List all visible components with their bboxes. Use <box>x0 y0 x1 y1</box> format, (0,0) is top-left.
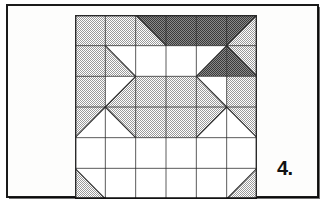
patch-r5-c3 <box>136 138 167 169</box>
patch-r1-c1 <box>75 15 106 46</box>
patch-r3-c1 <box>75 76 106 107</box>
patch-r6-c3 <box>136 168 167 199</box>
patch-r3-c4 <box>166 76 197 107</box>
patch-r1-c5 <box>196 15 227 46</box>
patch-r3-c6 <box>227 76 257 107</box>
patch-r2-c4 <box>166 46 197 77</box>
patch-r3-c3 <box>136 76 167 107</box>
patch-r5-c5 <box>196 138 227 169</box>
patch-r2-c1 <box>75 46 106 77</box>
patch-r6-c2 <box>105 168 136 199</box>
patch-r4-c4 <box>166 107 197 138</box>
page-canvas: 4. <box>0 0 327 205</box>
quilt-block-diagram <box>75 15 257 199</box>
patch-r2-c3 <box>136 46 167 77</box>
patch-r5-c6 <box>227 138 257 169</box>
patch-r6-c4 <box>166 168 197 199</box>
patch-r6-c5 <box>196 168 227 199</box>
patch-r4-c3 <box>136 107 167 138</box>
patch-r5-c1 <box>75 138 106 169</box>
figure-number-label: 4. <box>277 158 293 178</box>
patch-r1-c2 <box>105 15 136 46</box>
patch-r1-c4 <box>166 15 197 46</box>
patch-r5-c4 <box>166 138 197 169</box>
diagram-frame <box>6 4 319 198</box>
quilt-block-svg <box>75 15 257 199</box>
patch-r5-c2 <box>105 138 136 169</box>
